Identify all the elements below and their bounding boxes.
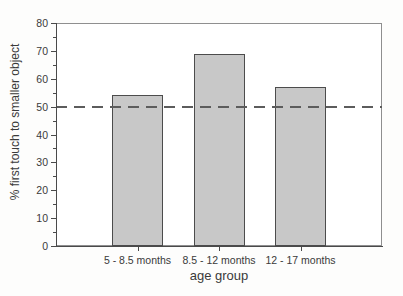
bar-3 xyxy=(275,87,326,246)
y-axis-title: % first touch to smaller object xyxy=(8,44,22,201)
bar-1 xyxy=(112,95,163,246)
y-tick-label: 20 xyxy=(16,184,48,196)
y-tick-label: 0 xyxy=(16,240,48,252)
y-tick-label: 10 xyxy=(16,212,48,224)
x-axis-line xyxy=(56,246,383,247)
y-tick-label: 40 xyxy=(16,129,48,141)
y-tick-label: 50 xyxy=(16,101,48,113)
x-tick-label: 12 - 17 months xyxy=(246,254,356,266)
y-tick-label: 70 xyxy=(16,45,48,57)
x-major-tick xyxy=(301,247,302,251)
x-major-tick xyxy=(219,247,220,251)
y-tick-label: 60 xyxy=(16,73,48,85)
y-tick-label: 30 xyxy=(16,156,48,168)
y-axis-line xyxy=(56,23,57,247)
bar-chart-figure: % first touch to smaller object 01020304… xyxy=(0,0,403,296)
x-axis-title: age group xyxy=(190,268,249,283)
reference-line-50pct xyxy=(56,106,382,108)
y-tick-label: 80 xyxy=(16,17,48,29)
bar-2 xyxy=(194,54,245,246)
x-major-tick xyxy=(138,247,139,251)
